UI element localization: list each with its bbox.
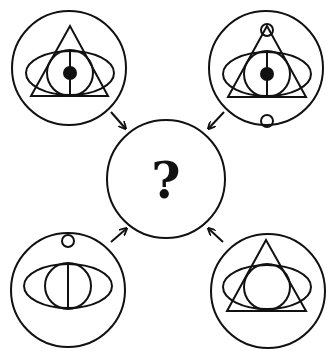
small-circle-top — [62, 235, 74, 247]
puzzle-diagram: ? — [0, 0, 336, 358]
panel-bottom-left — [11, 233, 125, 347]
panel-top-left — [12, 11, 126, 125]
arrow-top-right-to-center — [209, 112, 224, 128]
question-mark: ? — [151, 151, 180, 210]
panel-center: ? — [107, 120, 225, 238]
arrow-top-left-to-center — [111, 112, 125, 128]
outer-circle — [211, 234, 325, 348]
inner-circle — [244, 264, 290, 310]
triangle — [227, 240, 306, 311]
black-dot-icon — [260, 67, 274, 81]
panel-bottom-right — [211, 234, 325, 348]
arrow-bottom-left-to-center — [111, 229, 126, 242]
arrow-bottom-right-to-center — [209, 229, 223, 242]
ellipse — [223, 265, 311, 309]
panel-top-right — [209, 11, 323, 127]
black-dot-icon — [63, 66, 77, 80]
